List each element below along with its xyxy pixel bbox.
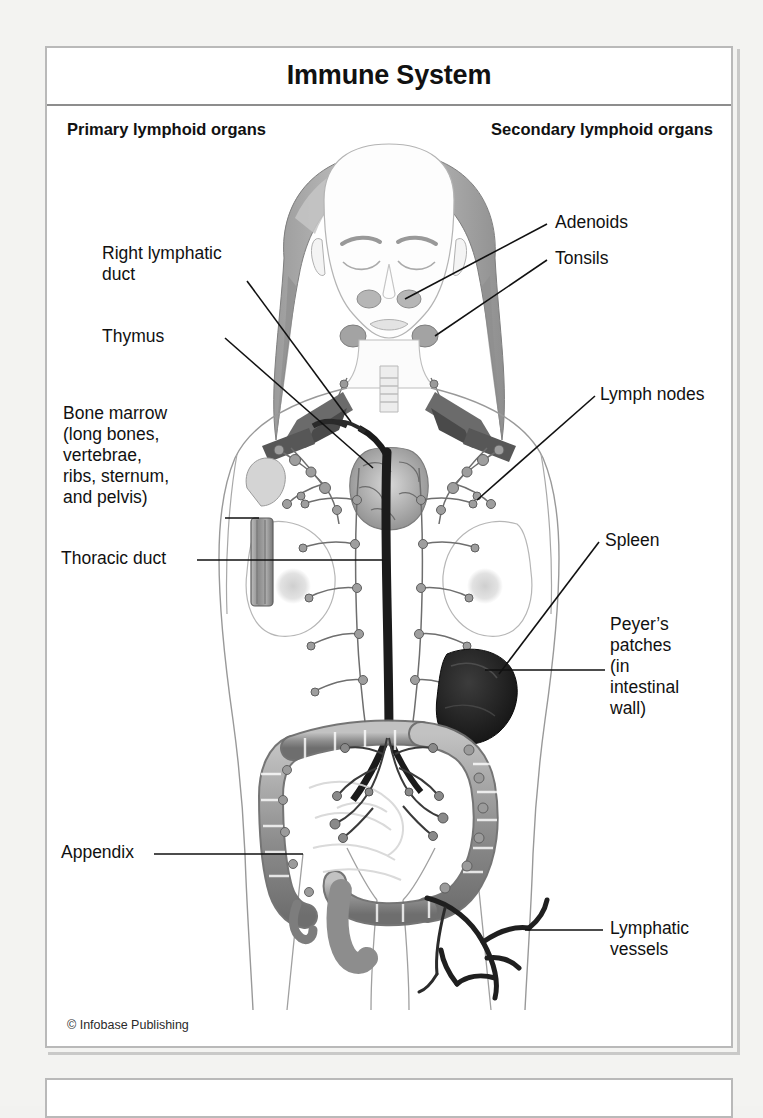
next-figure-panel (45, 1078, 733, 1118)
label-tonsils: Tonsils (555, 248, 609, 269)
head-and-face (311, 144, 466, 416)
label-lymph-nodes: Lymph nodes (600, 384, 704, 405)
label-lymphatic-vessels: Lymphatic vessels (610, 918, 689, 960)
label-appendix: Appendix (61, 842, 134, 863)
label-thymus: Thymus (102, 326, 164, 347)
adenoid-marker-left (357, 290, 381, 308)
publisher-credit: © Infobase Publishing (67, 1018, 189, 1032)
label-peyers-patches: Peyer’s patches (in intestinal wall) (610, 614, 679, 719)
label-adenoids: Adenoids (555, 212, 628, 233)
anatomy-illustration: Right lymphatic duct Thymus Bone marrow … (47, 48, 731, 1046)
label-bone-marrow: Bone marrow (long bones, vertebrae, ribs… (63, 403, 169, 508)
label-spleen: Spleen (605, 530, 660, 551)
label-right-lymphatic-duct: Right lymphatic duct (102, 243, 222, 285)
label-thoracic-duct: Thoracic duct (61, 548, 166, 569)
figure-panel: Immune System Primary lymphoid organs Se… (45, 46, 733, 1048)
leader-right-lymphatic-duct (247, 281, 351, 422)
